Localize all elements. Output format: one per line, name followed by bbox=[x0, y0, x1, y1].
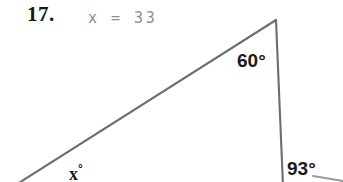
triangle-right-side-line bbox=[276, 20, 283, 182]
triangle-figure bbox=[0, 0, 343, 182]
triangle-base-stub-line bbox=[313, 176, 343, 181]
degree-symbol-icon: ° bbox=[78, 162, 83, 176]
triangle-hypotenuse-line bbox=[14, 20, 276, 182]
angle-label-right: 93° bbox=[287, 159, 316, 178]
problem-number: 17. bbox=[27, 4, 55, 25]
angle-label-unknown: x° bbox=[69, 163, 83, 182]
geometry-problem-page: 17. x = 33 60° 93° x° bbox=[0, 0, 343, 182]
answer-text: x = 33 bbox=[88, 11, 157, 26]
angle-label-apex: 60° bbox=[237, 51, 266, 70]
angle-label-unknown-variable: x bbox=[69, 164, 78, 182]
